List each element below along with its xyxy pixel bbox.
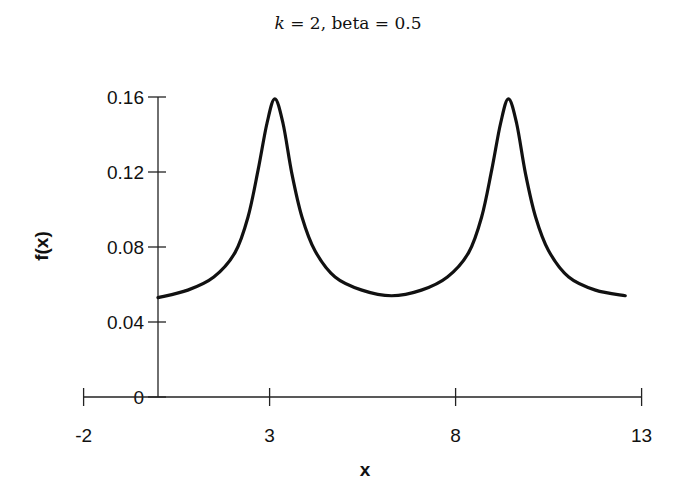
x-axis: -23813 xyxy=(75,388,652,446)
y-tick-label: 0.16 xyxy=(107,87,144,108)
chart-canvas: k = 2, beta = 0.5 00.040.080.120.16 -238… xyxy=(0,0,687,497)
y-tick-label: 0.12 xyxy=(107,162,144,183)
y-axis-label: f(x) xyxy=(31,231,52,261)
y-axis: 00.040.080.120.16 xyxy=(107,87,166,408)
y-tick-label: 0.08 xyxy=(107,237,144,258)
x-axis-label: x xyxy=(360,459,371,480)
x-tick-label: 8 xyxy=(450,425,461,446)
data-series-line xyxy=(158,99,625,298)
x-tick-label: -2 xyxy=(75,425,92,446)
title-rest: = 2, beta = 0.5 xyxy=(285,13,422,33)
title-k-symbol: k xyxy=(275,13,285,33)
x-tick-label: 3 xyxy=(264,425,275,446)
x-tick-label: 13 xyxy=(631,425,652,446)
y-tick-label: 0.04 xyxy=(107,312,144,333)
chart-title: k = 2, beta = 0.5 xyxy=(275,13,422,33)
